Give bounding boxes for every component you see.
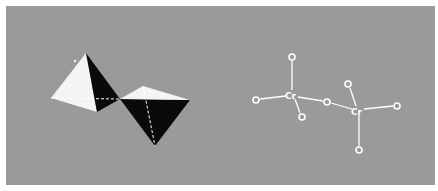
atom-o3	[299, 114, 305, 120]
atom-cr2-label: Cr	[351, 107, 363, 117]
atom-o7	[356, 147, 362, 153]
atoms	[253, 54, 400, 153]
bond-cr2-o6	[364, 106, 393, 109]
bond-cr2-o4	[331, 103, 352, 109]
atom-o5	[345, 81, 351, 87]
atom-cr1-label: Cr	[285, 91, 297, 101]
figure-canvas: Cr Cr	[0, 0, 438, 191]
tetra2-light-face	[120, 86, 190, 100]
bond-cr1-o3	[295, 99, 300, 113]
atom-o1	[289, 54, 295, 60]
tetra1-mark	[74, 60, 76, 62]
left-tetrahedron	[51, 53, 120, 112]
tetra2-dark-face	[120, 99, 190, 146]
atom-o4-bridge	[324, 99, 330, 105]
dichromate-schematic	[260, 61, 393, 146]
bond-cr1-o2	[260, 96, 286, 99]
atom-o2	[253, 97, 259, 103]
bond-cr1-o4	[298, 97, 323, 101]
bond-cr2-o5	[350, 88, 356, 106]
right-tetrahedron	[120, 86, 190, 146]
atom-o6	[394, 103, 400, 109]
